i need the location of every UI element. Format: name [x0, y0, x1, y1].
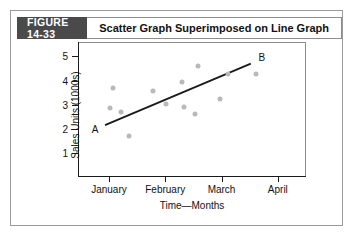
trend-line-layer — [68, 42, 306, 188]
scatter-point — [119, 110, 124, 115]
chart-plot-area: Sales Units (1000s) Time—Months 12345 Ja… — [68, 42, 306, 188]
scatter-point — [150, 88, 155, 93]
scatter-point — [192, 111, 197, 116]
scatter-point — [254, 72, 259, 77]
scatter-point — [164, 101, 169, 106]
endpoint-label-b: B — [258, 51, 265, 62]
figure-number-badge: FIGURE 14-33 — [17, 17, 87, 39]
figure-card: FIGURE 14-33 Scatter Graph Superimposed … — [10, 10, 343, 226]
figure-title: Scatter Graph Superimposed on Line Graph — [87, 17, 342, 39]
scatter-point — [180, 80, 185, 85]
scatter-point — [126, 133, 131, 138]
x-axis-title: Time—Months — [78, 200, 306, 211]
scatter-point — [218, 96, 223, 101]
scatter-point — [195, 63, 200, 68]
scatter-point — [225, 72, 230, 77]
scatter-point — [108, 106, 113, 111]
figure-title-bar: FIGURE 14-33 Scatter Graph Superimposed … — [17, 17, 342, 39]
endpoint-label-a: A — [92, 124, 99, 135]
scatter-point — [181, 104, 186, 109]
scatter-point — [111, 86, 116, 91]
